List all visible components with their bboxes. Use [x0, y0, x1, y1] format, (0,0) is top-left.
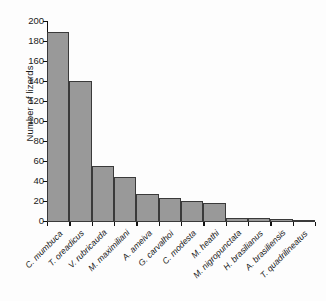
y-tick-label: 140 — [28, 75, 44, 86]
bar[interactable] — [270, 219, 292, 222]
y-tick-label: 0 — [39, 215, 44, 226]
bar[interactable] — [293, 220, 315, 222]
bar[interactable] — [69, 81, 91, 222]
bar[interactable] — [181, 201, 203, 222]
bar[interactable] — [159, 198, 181, 222]
y-tick-label: 40 — [33, 175, 44, 186]
y-tick-label: 100 — [28, 115, 44, 126]
bar[interactable] — [248, 218, 270, 222]
bar[interactable] — [136, 194, 158, 222]
y-tick-label: 20 — [33, 195, 44, 206]
plot-area: 020406080100120140160180200 — [47, 21, 315, 222]
x-tick-mark — [270, 222, 271, 226]
x-tick-mark — [226, 222, 227, 226]
bar[interactable] — [203, 203, 225, 222]
bar[interactable] — [47, 32, 69, 222]
x-tick-mark — [159, 222, 160, 226]
x-tick-mark — [136, 222, 137, 226]
bar[interactable] — [114, 177, 136, 222]
x-tick-mark — [114, 222, 115, 226]
y-tick-label: 200 — [28, 15, 44, 26]
x-tick-mark — [203, 222, 204, 226]
bar[interactable] — [226, 218, 248, 222]
x-tick-mark — [248, 222, 249, 226]
x-tick-mark — [47, 222, 48, 226]
y-tick-label: 60 — [33, 155, 44, 166]
x-tick-mark — [92, 222, 93, 226]
bar[interactable] — [92, 166, 114, 222]
x-tick-mark — [69, 222, 70, 226]
y-tick-label: 180 — [28, 35, 44, 46]
x-tick-mark — [181, 222, 182, 226]
x-tick-mark — [315, 222, 316, 226]
x-tick-mark — [293, 222, 294, 226]
y-tick-label: 80 — [33, 135, 44, 146]
y-tick-label: 160 — [28, 55, 44, 66]
y-tick-label: 120 — [28, 95, 44, 106]
lizard-abundance-bar-chart: Number of lizards 0204060801001201401601… — [0, 0, 326, 301]
